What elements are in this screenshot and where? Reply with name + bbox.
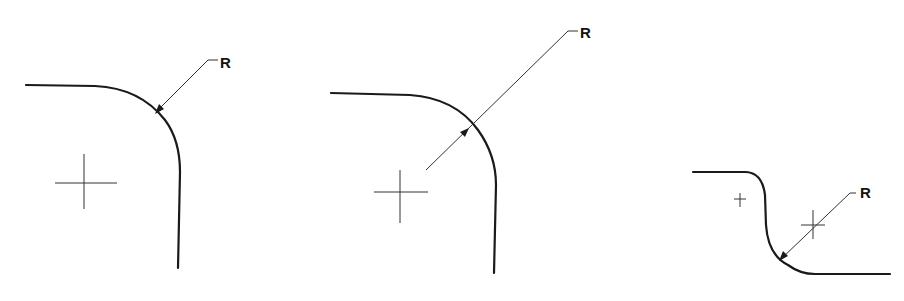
dimension-line	[426, 31, 578, 170]
fillet-outline	[331, 93, 496, 273]
center-mark-icon	[55, 154, 117, 209]
radius-label: R	[220, 54, 231, 71]
radius-dimension-diagram: R R R	[0, 0, 904, 301]
center-mark-icon	[801, 210, 825, 239]
small-center-mark-icon	[734, 193, 746, 207]
figure-1: R	[26, 54, 231, 268]
radius-label: R	[860, 184, 871, 201]
figure-3: R	[693, 172, 890, 274]
figure-2: R	[331, 24, 591, 273]
radius-label: R	[580, 24, 591, 41]
center-mark-icon	[374, 170, 428, 223]
leader-arrow	[779, 193, 856, 261]
leader-arrow	[155, 60, 218, 114]
